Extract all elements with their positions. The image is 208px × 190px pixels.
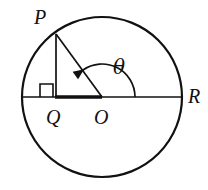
theta-arc-arrowhead-icon bbox=[73, 69, 85, 79]
point-label-q: Q bbox=[46, 106, 61, 128]
angle-label-theta: θ bbox=[113, 55, 125, 79]
geometry-diagram: P Q O R θ bbox=[0, 0, 208, 190]
point-label-r: R bbox=[187, 85, 200, 107]
right-angle-marker-icon bbox=[40, 84, 53, 97]
point-label-o: O bbox=[94, 106, 108, 128]
circle-geometry-figure: P Q O R θ bbox=[0, 0, 208, 190]
point-label-p: P bbox=[33, 6, 46, 28]
